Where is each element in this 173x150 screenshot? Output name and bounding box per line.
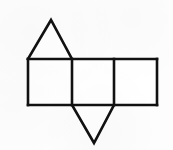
figure-canvas — [0, 0, 173, 150]
face-square-left — [28, 59, 72, 105]
face-square-middle — [72, 59, 114, 105]
face-square-right — [114, 59, 157, 105]
geometric-net-svg — [0, 0, 173, 150]
